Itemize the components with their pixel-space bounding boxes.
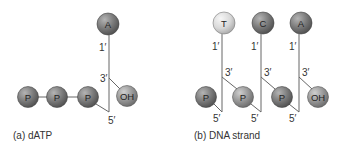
hydroxyl-sphere: OH (117, 86, 138, 107)
svg-text:OH: OH (311, 92, 325, 103)
prime-5-label-t: 5′ (213, 113, 221, 124)
phosphate-to-5prime-line (96, 104, 109, 112)
svg-text:OH: OH (120, 91, 134, 102)
prime-5-label-a: 5′ (289, 113, 297, 124)
p-to-5prime-line-3 (289, 104, 299, 112)
svg-text:C: C (260, 18, 267, 29)
prime-5-label-c: 5′ (251, 113, 259, 124)
prime-3-label-t: 3′ (225, 67, 233, 78)
3prime-to-oh-line-3 (299, 77, 312, 89)
prime-1-label-c: 1′ (251, 41, 259, 52)
phosphate-sphere-b2: P (233, 87, 254, 108)
diagram-canvas: A 1′ 3′ 5′ P P P OH (a) dATP (0, 0, 340, 152)
prime-3-label: 3′ (100, 73, 108, 84)
svg-text:P: P (85, 92, 91, 103)
3prime-to-oh-line (109, 78, 121, 90)
3prime-to-next-p-line-1 (222, 77, 237, 89)
prime-1-label-a: 1′ (289, 41, 297, 52)
svg-text:A: A (298, 18, 305, 29)
base-a-sphere-strand: A (290, 12, 312, 34)
svg-text:P: P (279, 92, 285, 103)
phosphate-sphere-b1: P (196, 87, 217, 108)
panel-a-datp: A 1′ 3′ 5′ P P P OH (a) dATP (13, 13, 138, 141)
phosphate-sphere-b3: P (272, 87, 293, 108)
3prime-to-next-p-line-2 (261, 77, 275, 89)
prime-3-label-c: 3′ (264, 67, 272, 78)
prime-1-label: 1′ (99, 42, 107, 53)
phosphate-sphere-2: P (47, 87, 68, 108)
caption-b: (b) DNA strand (194, 130, 260, 141)
panel-b-dna-strand: T C A 1′ 1′ 1′ 3′ 3′ 3′ 5′ 5′ 5′ P P (194, 12, 329, 141)
p-to-5prime-line-2 (251, 104, 261, 112)
svg-text:T: T (221, 18, 227, 29)
prime-5-label: 5′ (108, 115, 116, 126)
phosphate-sphere-3: P (78, 87, 99, 108)
p-to-5prime-line-1 (214, 104, 222, 112)
phosphate-sphere-1: P (18, 87, 39, 108)
svg-text:P: P (240, 92, 246, 103)
prime-3-label-a: 3′ (302, 67, 310, 78)
base-t-sphere: T (213, 12, 235, 34)
svg-text:P: P (54, 92, 60, 103)
caption-a: (a) dATP (13, 130, 53, 141)
base-a-sphere: A (97, 13, 119, 35)
base-label: A (105, 19, 112, 30)
hydroxyl-sphere-strand: OH (308, 87, 329, 108)
svg-text:P: P (25, 92, 31, 103)
svg-text:P: P (203, 92, 209, 103)
prime-1-label-t: 1′ (212, 41, 220, 52)
base-c-sphere: C (252, 12, 274, 34)
